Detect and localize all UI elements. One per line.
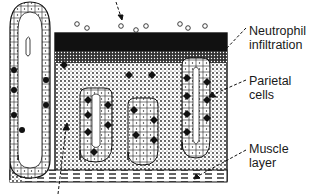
label-line: layer [249, 156, 289, 170]
villus [10, 2, 50, 180]
neutrophil-leader [225, 28, 246, 50]
label-line: Neutrophil [249, 24, 306, 38]
label-line: Parietal [249, 74, 291, 88]
label-line: infiltration [249, 38, 306, 52]
top-arrow [116, 2, 123, 20]
label-line: cells [249, 88, 291, 102]
label-neutrophil-infiltration: Neutrophil infiltration [249, 24, 306, 52]
label-parietal-cells: Parietal cells [249, 74, 291, 102]
label-muscle-layer: Muscle layer [249, 142, 289, 170]
label-line: Muscle [249, 142, 289, 156]
neutrophils [75, 22, 208, 33]
